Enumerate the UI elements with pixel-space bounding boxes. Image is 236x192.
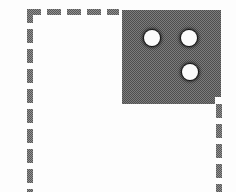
dash-top-segment — [47, 9, 61, 15]
dash-top-segment — [67, 9, 81, 15]
dash-left-segment — [27, 49, 33, 63]
dash-left-segment — [27, 29, 33, 43]
dash-left-segment — [27, 169, 33, 183]
hole-bottom-right — [182, 64, 198, 80]
hole-top-left — [144, 30, 160, 46]
dash-right-segment — [216, 184, 222, 192]
dash-right-segment — [216, 144, 222, 158]
hole-top-right — [181, 30, 197, 46]
dash-left-segment — [27, 129, 33, 143]
dash-top-segment — [87, 9, 101, 15]
dash-left-segment — [27, 109, 33, 123]
plate-body — [122, 10, 221, 104]
dash-right-segment — [216, 124, 222, 138]
dash-right-segment — [216, 164, 222, 178]
dash-left-segment — [27, 9, 33, 23]
dash-top-segment — [107, 9, 119, 15]
dash-left-segment — [27, 149, 33, 163]
plate-corner-notch — [215, 97, 221, 104]
dash-left-segment — [27, 69, 33, 83]
figure-canvas — [0, 0, 236, 192]
dash-left-segment — [27, 89, 33, 103]
dash-left-segment — [27, 189, 33, 192]
dash-right-segment — [216, 104, 222, 118]
